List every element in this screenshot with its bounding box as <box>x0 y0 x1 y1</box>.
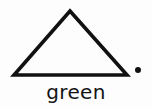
triangle-shape <box>14 11 127 75</box>
caption-label: green <box>0 81 152 103</box>
period-dot-icon <box>135 67 141 73</box>
figure-canvas: green <box>0 0 152 109</box>
